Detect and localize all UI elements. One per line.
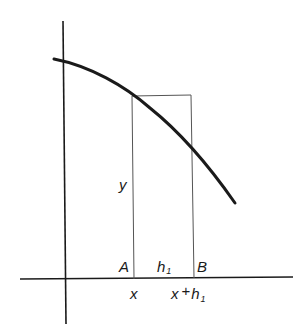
label-point-b: B — [197, 258, 207, 275]
label-point-a: A — [118, 258, 129, 275]
ordinate-at-b — [191, 95, 194, 278]
x-right-main: x — [170, 285, 179, 302]
diagram-canvas: y A h1 B x x+h1 — [0, 0, 307, 331]
x-right-subscript: 1 — [201, 294, 206, 304]
label-y: y — [118, 176, 128, 193]
ordinate-at-a — [132, 96, 134, 279]
label-h1-width: h1 — [157, 258, 171, 276]
decreasing-curve — [54, 59, 235, 203]
h1-main: h — [157, 258, 165, 275]
rectangle-top-edge — [132, 95, 191, 96]
function-graph: y A h1 B x x+h1 — [0, 0, 307, 331]
label-x-plus-h1: x+h1 — [170, 282, 206, 304]
h1-subscript: 1 — [166, 266, 171, 276]
x-axis — [20, 277, 293, 279]
plus-sign: + — [182, 282, 191, 299]
label-x-left: x — [129, 285, 138, 302]
x-right-h: h — [191, 285, 199, 302]
